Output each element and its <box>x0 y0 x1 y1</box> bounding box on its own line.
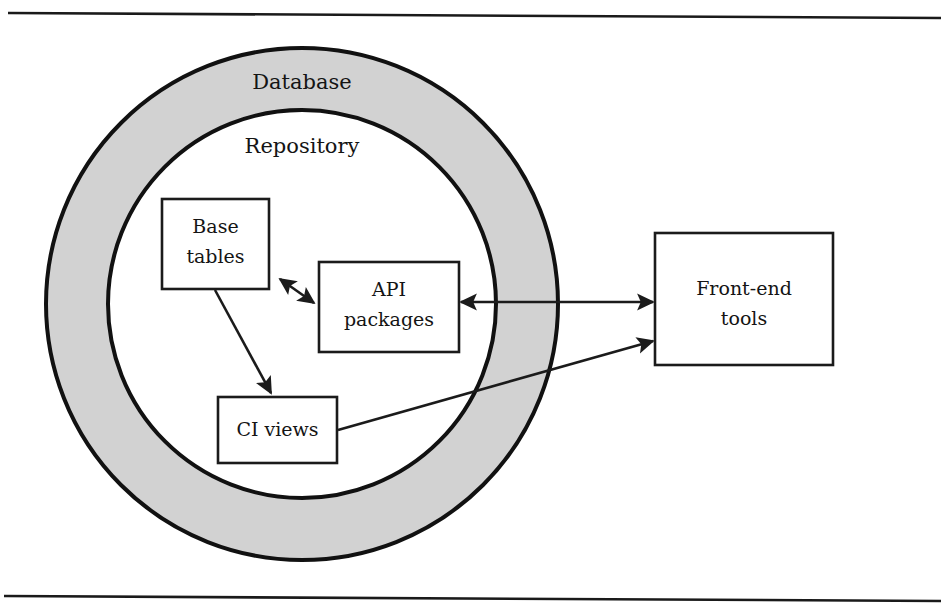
bottom-rule <box>4 596 941 601</box>
front-end-tools-label-line-2: tools <box>721 307 767 329</box>
base-tables-box[interactable] <box>162 199 269 289</box>
api-packages-box[interactable] <box>319 262 459 352</box>
top-rule <box>8 13 941 18</box>
figure-root: Database Repository Base tables API pack… <box>0 0 949 616</box>
node-ci-views[interactable]: CI views <box>218 397 337 463</box>
api-packages-label-line-1: API <box>371 278 406 300</box>
base-tables-label-line-2: tables <box>186 245 244 267</box>
node-api-packages[interactable]: API packages <box>319 262 459 352</box>
api-packages-label-line-2: packages <box>344 308 434 330</box>
front-end-tools-box[interactable] <box>655 233 833 365</box>
front-end-tools-label-line-1: Front-end <box>696 277 792 299</box>
node-front-end-tools[interactable]: Front-end tools <box>655 233 833 365</box>
ci-views-label: CI views <box>236 418 318 440</box>
node-base-tables[interactable]: Base tables <box>162 199 269 289</box>
architecture-diagram: Database Repository Base tables API pack… <box>0 0 949 616</box>
repository-zone-label: Repository <box>245 134 360 158</box>
base-tables-label-line-1: Base <box>192 215 238 237</box>
database-zone-label: Database <box>252 70 351 94</box>
